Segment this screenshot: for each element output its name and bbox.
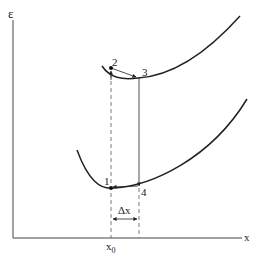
point-1 — [109, 186, 113, 190]
x0-subscript: 0 — [112, 246, 116, 255]
point-label-4: 4 — [141, 186, 147, 198]
lower-curve — [77, 99, 247, 188]
upper-curve — [102, 16, 240, 79]
x0-label: x0 — [106, 240, 116, 255]
y-axis-label: ε — [8, 6, 14, 21]
energy-diagram: ε x 1 2 3 4 Δx x0 — [0, 0, 264, 261]
point-label-1: 1 — [104, 175, 110, 187]
point-label-3: 3 — [142, 66, 148, 78]
arrow-4-to-1 — [113, 186, 138, 187]
point-label-2: 2 — [112, 56, 118, 68]
delta-x-label: Δx — [118, 204, 131, 216]
arrow-2-to-3 — [111, 68, 136, 77]
x-axis-label: x — [244, 231, 250, 243]
